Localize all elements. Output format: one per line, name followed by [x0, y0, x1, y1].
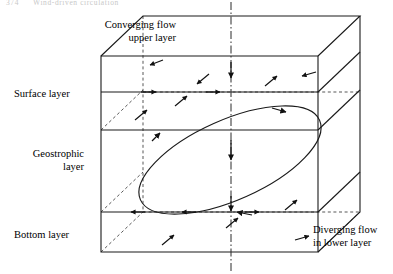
bottom-arrow-diagonal-inner — [226, 218, 238, 228]
label-bottom-layer: Bottom layer — [14, 229, 69, 242]
surface-arrow-diagonal-mid — [197, 74, 209, 84]
bottom-right-diagonal — [318, 172, 360, 212]
label-surface-layer: Surface layer — [14, 88, 70, 101]
bottom-arrow-diagonal-low — [162, 235, 174, 245]
figure-page: 374Wind-driven circulation — [0, 0, 393, 274]
bottom-arrow-low-right — [295, 236, 309, 240]
gyre-arrow-top — [272, 108, 286, 112]
label-converging-flow: Converging flow upper layer — [72, 19, 176, 44]
geostrophic-gyre-path — [124, 84, 336, 237]
surface-arrow-far-left — [150, 60, 163, 65]
geostrophic-line-1: Geostrophic — [14, 148, 84, 161]
hidden-bottom-left-diagonal — [101, 212, 143, 252]
front-face-outline — [101, 56, 318, 252]
surface-arrow-lower-left — [135, 110, 147, 120]
bottom-arrow-diagonal-right — [285, 200, 297, 210]
hidden-lower-left-diagonal — [101, 172, 143, 212]
surface-converging-arrows — [135, 60, 316, 120]
surface-arrow-diagonal-right — [265, 76, 277, 86]
diverging-line-1: Diverging flow — [313, 224, 377, 237]
label-geostrophic-layer: Geostrophic layer — [14, 148, 84, 173]
geostrophic-line-2: layer — [14, 161, 84, 174]
right-face-outline — [318, 16, 360, 252]
geostrophic-right-diagonal — [318, 90, 360, 130]
gyre-ellipse — [124, 84, 336, 237]
hidden-geostrophic-left-diagonal — [101, 90, 143, 130]
converging-line-1: Converging flow — [72, 19, 176, 32]
surface-arrow-right-horizontal — [302, 72, 316, 76]
label-diverging-flow: Diverging flow in lower layer — [313, 224, 377, 249]
surface-layer-right-diagonal — [318, 52, 360, 92]
converging-line-2: upper layer — [72, 32, 176, 45]
surface-arrow-diagonal-left — [175, 96, 187, 106]
diverging-line-2: in lower layer — [313, 237, 377, 250]
gyre-arrow-left — [152, 133, 160, 141]
